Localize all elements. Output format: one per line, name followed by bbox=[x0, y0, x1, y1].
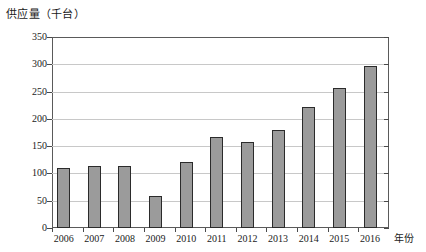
x-tick-mark bbox=[266, 228, 267, 232]
x-tick-mark bbox=[205, 228, 206, 232]
y-tick-label: 0 bbox=[3, 223, 47, 233]
bar bbox=[57, 168, 70, 228]
bar bbox=[180, 162, 193, 228]
x-axis-title: 年份 bbox=[394, 233, 414, 245]
bar bbox=[210, 137, 223, 228]
x-tick-mark bbox=[175, 228, 176, 232]
y-axis-title: 供应量（千台） bbox=[6, 8, 85, 21]
bar bbox=[118, 166, 131, 228]
x-tick-mark bbox=[113, 228, 114, 232]
y-tick-label: 250 bbox=[3, 87, 47, 97]
y-tick-label: 150 bbox=[3, 141, 47, 151]
bar bbox=[88, 166, 101, 228]
y-tick-label: 300 bbox=[3, 59, 47, 69]
bar bbox=[302, 107, 315, 228]
y-tick-label: 200 bbox=[3, 114, 47, 124]
bar bbox=[272, 130, 285, 228]
x-tick-mark bbox=[328, 228, 329, 232]
y-tick-label: 100 bbox=[3, 168, 47, 178]
bar bbox=[333, 88, 346, 228]
y-tick-label: 350 bbox=[3, 32, 47, 42]
x-tick-mark bbox=[236, 228, 237, 232]
bars-container bbox=[52, 37, 389, 228]
y-tick-label: 50 bbox=[3, 196, 47, 206]
x-tick-mark bbox=[297, 228, 298, 232]
y-tick-mark-right bbox=[384, 228, 389, 229]
x-tick-mark bbox=[52, 228, 53, 232]
bar bbox=[149, 196, 162, 228]
x-tick-mark bbox=[83, 228, 84, 232]
bar bbox=[364, 66, 377, 228]
x-tick-label: 2016 bbox=[350, 233, 390, 245]
bar bbox=[241, 142, 254, 228]
x-tick-mark bbox=[358, 228, 359, 232]
bar-chart: 供应量（千台） 050100150200250300350 2006200720… bbox=[0, 0, 426, 252]
x-tick-mark bbox=[144, 228, 145, 232]
